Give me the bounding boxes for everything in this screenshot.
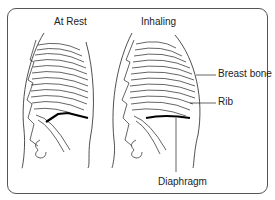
ribcage-inhaling	[112, 33, 200, 168]
ribcage-at-rest	[22, 33, 93, 168]
ribcage-illustration	[0, 0, 275, 200]
